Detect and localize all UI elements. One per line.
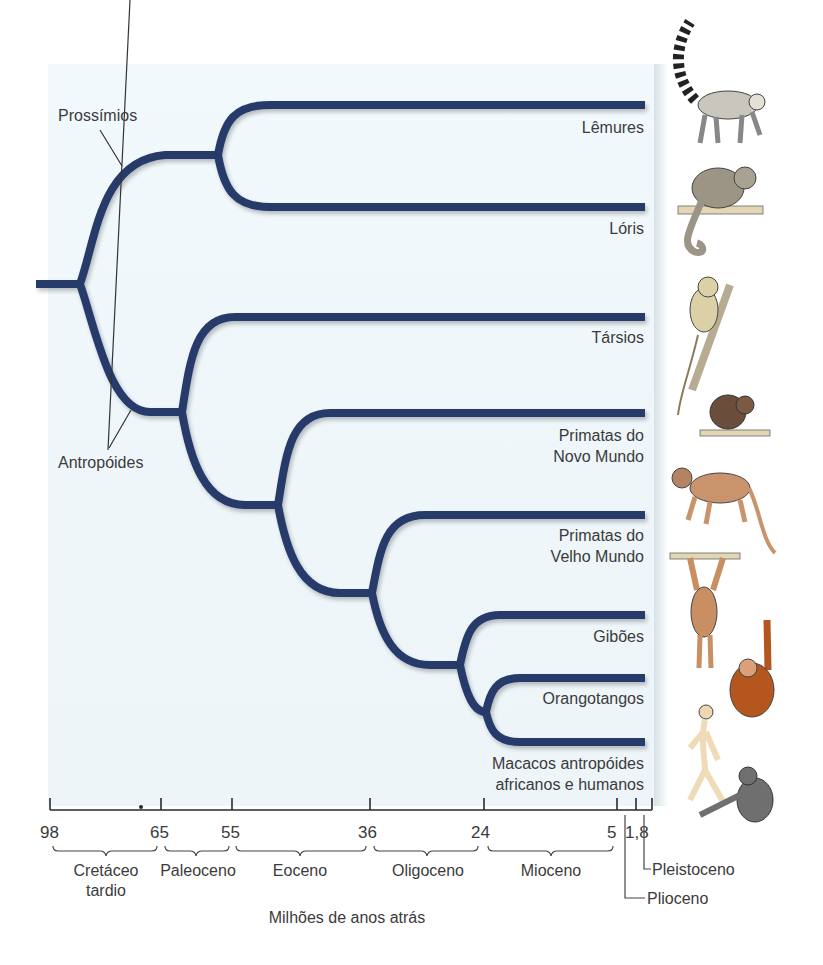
anthropoids-pointer xyxy=(109,410,131,448)
time-axis xyxy=(50,798,652,810)
era-cretaceo-line1: Cretáceo xyxy=(74,862,139,879)
label-tarsios: Társios xyxy=(592,329,644,346)
tick-55: 55 xyxy=(221,823,240,842)
tree-branches xyxy=(36,105,645,742)
branch-great-apes xyxy=(460,665,486,712)
tick-65: 65 xyxy=(150,823,169,842)
tarsier-illustration xyxy=(678,277,730,415)
primate-phylogeny-figure: Prossímios Antropóides Lêmures Lóris Tár… xyxy=(0,0,823,965)
label-africanos-line2: africanos e humanos xyxy=(495,776,644,793)
branch-higher-primates xyxy=(182,412,278,505)
tick-98: 98 xyxy=(40,823,59,842)
tick-5: 5 xyxy=(607,823,616,842)
label-velho-mundo-line2: Velho Mundo xyxy=(551,548,645,565)
tick-24: 24 xyxy=(471,823,490,842)
epoch-pleistoceno: Pleistoceno xyxy=(652,861,735,878)
tick-36: 36 xyxy=(358,823,377,842)
label-antropoides: Antropóides xyxy=(58,454,143,471)
era-paleoceno: Paleoceno xyxy=(160,862,236,879)
branch-africanos-humanos xyxy=(486,712,645,742)
tree-svg: Prossímios Antropóides Lêmures Lóris Tár… xyxy=(0,0,823,965)
label-orangotangos: Orangotangos xyxy=(543,690,644,707)
human-and-chimpanzee-illustration xyxy=(690,705,773,822)
new-world-monkey-illustration xyxy=(700,395,770,436)
prosimians-pointer-line xyxy=(100,130,122,166)
loris-illustration xyxy=(678,167,763,253)
label-loris: Lóris xyxy=(609,220,644,237)
era-eoceno: Eoceno xyxy=(273,862,327,879)
epoch-plioceno: Plioceno xyxy=(647,890,708,907)
label-novo-mundo-line1: Primatas do xyxy=(559,427,644,444)
branch-loris xyxy=(218,155,645,207)
era-oligoceno: Oligoceno xyxy=(392,862,464,879)
orangutan-illustration xyxy=(730,620,774,717)
gibbon-illustration xyxy=(670,553,740,668)
label-prossimios: Prossímios xyxy=(58,107,137,124)
label-lemures: Lêmures xyxy=(582,119,644,136)
era-mioceno: Mioceno xyxy=(521,862,582,879)
axis-title: Milhões de anos atrás xyxy=(269,909,426,926)
tick-1-8: 1,8 xyxy=(625,823,649,842)
old-world-monkey-illustration xyxy=(672,468,775,553)
branch-catarrhines xyxy=(278,505,372,593)
anthropoids-pointer-line xyxy=(108,0,130,450)
branch-tarsios xyxy=(182,317,645,412)
branch-apes xyxy=(372,593,460,665)
era-cretaceo-line2: tardio xyxy=(86,882,126,899)
label-africanos-line1: Macacos antropóides xyxy=(492,755,644,772)
label-novo-mundo-line2: Novo Mundo xyxy=(553,448,644,465)
branch-prosimians xyxy=(80,155,218,284)
label-giboes: Gibões xyxy=(593,628,644,645)
ring-tailed-lemur-illustration xyxy=(678,22,765,143)
branch-anthropoids xyxy=(80,284,182,412)
era-braces xyxy=(53,846,613,856)
label-velho-mundo-line1: Primatas do xyxy=(559,527,644,544)
